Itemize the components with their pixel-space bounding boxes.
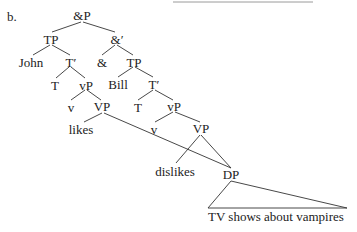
node-v2: v xyxy=(151,123,158,136)
node-dp-yield: TV shows about vampires xyxy=(208,210,344,223)
node-john: John xyxy=(19,56,44,69)
node-VP2: VP xyxy=(193,122,210,135)
syntax-tree-diagram: b. &P TP &′ John T′ & TP T vP Bill T′ v … xyxy=(0,0,357,232)
node-tp2: TP xyxy=(126,56,141,69)
node-VP1: VP xyxy=(94,100,111,113)
node-andP: &P xyxy=(73,9,90,22)
node-vp-small2: vP xyxy=(167,100,181,113)
node-dislikes: dislikes xyxy=(155,165,195,178)
node-tbar2: T′ xyxy=(149,78,160,91)
node-v1: v xyxy=(68,101,75,114)
node-vp-small1: vP xyxy=(79,79,93,92)
node-and: & xyxy=(97,56,107,69)
node-and-bar: &′ xyxy=(111,33,124,46)
node-dp: DP xyxy=(223,168,240,181)
node-tp1: TP xyxy=(43,33,58,46)
node-t1: T xyxy=(51,79,59,92)
node-bill: Bill xyxy=(108,78,128,91)
dp-triangle xyxy=(208,181,347,208)
node-likes: likes xyxy=(69,123,94,136)
example-label: b. xyxy=(7,10,17,23)
node-t2: T xyxy=(134,101,142,114)
node-tbar1: T′ xyxy=(66,56,77,69)
